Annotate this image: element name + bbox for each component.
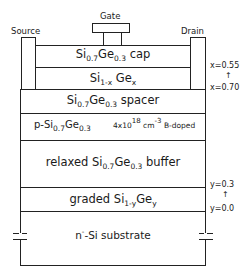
cap-top-line [36, 45, 190, 46]
graded-layer-label: graded Si1-yGey [20, 192, 206, 206]
gate-stem-right [121, 33, 122, 45]
right-capacitor-gap [204, 233, 207, 239]
cap-channel-divider [36, 67, 190, 68]
gate-electrode [92, 23, 130, 33]
x-bottom-annotation: x=0.70 [210, 83, 239, 92]
spacer-layer-label: Si0.7Ge0.3 spacer [20, 93, 206, 107]
doping-concentration: 4x1018 cm-3 B-doped [113, 121, 195, 130]
left-capacitor-gap [19, 233, 22, 239]
substrate-layer-label: n--Si substrate [20, 229, 206, 241]
graded-divider [20, 211, 206, 212]
buffer-divider [20, 187, 206, 188]
source-label: Source [11, 26, 40, 36]
x-top-annotation: x=0.55 [210, 61, 239, 70]
y-top-annotation: y=0.3 [210, 180, 234, 189]
gate-label: Gate [100, 11, 120, 21]
x-gradient-arrow-icon: ↑ [225, 71, 232, 80]
cap-layer-label: Si0.7Ge0.3 cap [20, 47, 206, 61]
doped-divider [20, 140, 206, 141]
gate-stem-left [103, 33, 104, 45]
right-capacitor-plate-bottom [199, 239, 213, 240]
left-capacitor-plate-bottom [13, 239, 27, 240]
channel-layer-label: Si1-x Gex [20, 71, 206, 85]
y-bottom-annotation: y=0.0 [210, 204, 234, 213]
spacer-divider [20, 113, 206, 114]
drain-label: Drain [181, 26, 204, 36]
y-gradient-arrow-icon: ↑ [222, 190, 229, 199]
doped-layer-label: p-Si0.7Ge0.3 [34, 119, 91, 130]
buffer-layer-label: relaxed Si0.7Ge0.3 buffer [20, 155, 206, 169]
